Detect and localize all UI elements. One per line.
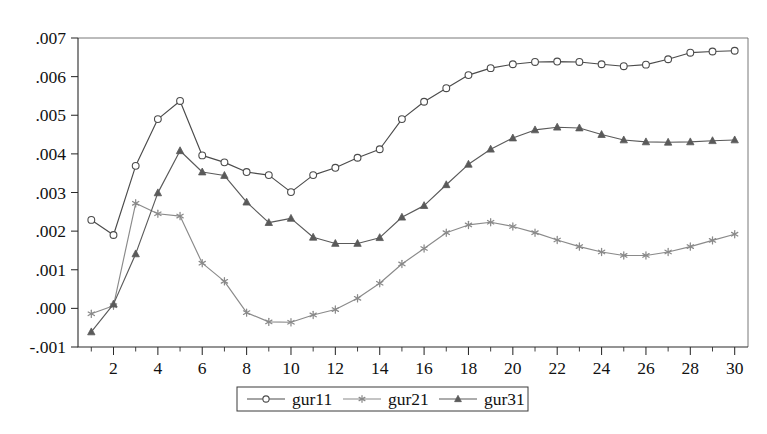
marker-filled-triangle	[487, 145, 494, 152]
x-axis-tick-label: 22	[548, 358, 566, 378]
legend-entry-gur11[interactable]: gur11	[247, 389, 332, 409]
marker-open-circle	[665, 56, 672, 63]
marker-open-circle	[354, 154, 361, 161]
x-axis-tick-label: 20	[504, 358, 522, 378]
marker-asterisk	[354, 295, 360, 302]
x-axis-tick-label: 8	[242, 358, 251, 378]
legend-entry-gur21[interactable]: gur21	[343, 389, 429, 409]
marker-open-circle	[399, 116, 406, 123]
marker-open-circle	[598, 61, 605, 68]
marker-open-circle	[199, 152, 206, 159]
marker-filled-triangle	[465, 160, 472, 167]
marker-open-circle	[177, 98, 184, 105]
series-gur11	[88, 47, 738, 238]
marker-open-circle	[263, 396, 269, 402]
marker-open-circle	[731, 47, 738, 54]
series-line-gur21	[91, 203, 734, 322]
x-axis-tick-label: 26	[637, 358, 655, 378]
marker-open-circle	[132, 162, 139, 169]
marker-open-circle	[443, 85, 450, 92]
marker-open-circle	[376, 146, 383, 153]
marker-open-circle	[332, 164, 339, 171]
series-gur31	[88, 123, 739, 335]
marker-filled-triangle	[154, 189, 161, 196]
marker-asterisk	[732, 231, 738, 238]
marker-filled-triangle	[176, 147, 183, 154]
x-axis-tick-label: 2	[109, 358, 118, 378]
marker-open-circle	[88, 217, 95, 224]
marker-open-circle	[576, 59, 583, 66]
marker-asterisk	[133, 200, 139, 207]
y-axis-tick-label: .004	[35, 144, 66, 164]
plot-border	[78, 38, 748, 347]
axis-ticks	[71, 38, 735, 355]
marker-asterisk	[443, 229, 449, 236]
y-axis-tick-label: .003	[35, 183, 66, 203]
marker-open-circle	[687, 49, 694, 56]
x-axis-tick-label: 12	[327, 358, 345, 378]
marker-filled-triangle	[309, 233, 316, 240]
marker-open-circle	[243, 169, 250, 176]
data-series-group	[88, 47, 739, 334]
x-axis-tick-label: 18	[460, 358, 478, 378]
x-axis-tick-labels: 24681012141618202224262830	[109, 358, 744, 378]
x-axis-tick-label: 4	[153, 358, 162, 378]
y-axis-tick-label: .000	[35, 298, 66, 318]
marker-open-circle	[643, 61, 650, 68]
marker-filled-triangle	[287, 214, 294, 221]
plot-axes	[78, 38, 748, 347]
chart-legend: gur11gur21gur31	[237, 387, 528, 411]
y-axis-tick-label: .007	[35, 28, 66, 48]
marker-open-circle	[487, 65, 494, 72]
marker-open-circle	[288, 189, 295, 196]
marker-open-circle	[554, 58, 561, 65]
legend-entry-gur31[interactable]: gur31	[439, 389, 525, 409]
x-axis-tick-label: 14	[371, 358, 389, 378]
marker-asterisk	[709, 237, 715, 244]
x-axis-tick-label: 28	[682, 358, 700, 378]
marker-asterisk	[421, 245, 427, 252]
marker-filled-triangle	[132, 250, 139, 257]
marker-open-circle	[110, 232, 117, 239]
marker-asterisk	[88, 310, 94, 317]
x-axis-tick-label: 30	[726, 358, 744, 378]
marker-open-circle	[310, 172, 317, 179]
marker-filled-triangle	[731, 136, 738, 143]
series-line-gur31	[91, 127, 734, 332]
chart-figure: -.001.000.001.002.003.004.005.006.007 24…	[0, 0, 767, 434]
marker-open-circle	[221, 159, 228, 166]
x-axis-tick-label: 16	[415, 358, 433, 378]
x-axis-tick-label: 6	[198, 358, 207, 378]
x-axis-tick-label: 24	[593, 358, 611, 378]
marker-open-circle	[465, 72, 472, 79]
y-axis-tick-label: .001	[35, 260, 66, 280]
y-axis-tick-label: .006	[35, 67, 66, 87]
marker-open-circle	[154, 116, 161, 123]
marker-asterisk	[532, 229, 538, 236]
marker-filled-triangle	[554, 123, 561, 130]
marker-open-circle	[620, 63, 627, 70]
marker-open-circle	[709, 48, 716, 55]
y-axis-tick-label: .002	[35, 221, 66, 241]
y-axis-tick-label: .005	[35, 105, 66, 125]
series-gur21	[88, 200, 738, 326]
marker-open-circle	[421, 98, 428, 105]
y-axis-tick-label: -.001	[30, 337, 66, 357]
legend-label-gur31: gur31	[484, 389, 525, 409]
marker-asterisk	[554, 236, 560, 243]
marker-filled-triangle	[398, 213, 405, 220]
marker-open-circle	[509, 61, 516, 68]
y-axis-tick-labels: -.001.000.001.002.003.004.005.006.007	[30, 28, 67, 357]
series-line-gur11	[91, 51, 734, 235]
marker-open-circle	[265, 172, 272, 179]
legend-label-gur21: gur21	[388, 389, 429, 409]
legend-label-gur11: gur11	[292, 389, 332, 409]
marker-open-circle	[532, 59, 539, 66]
x-axis-tick-label: 10	[282, 358, 300, 378]
line-chart: -.001.000.001.002.003.004.005.006.007 24…	[0, 0, 767, 434]
plot-frame	[78, 38, 748, 347]
